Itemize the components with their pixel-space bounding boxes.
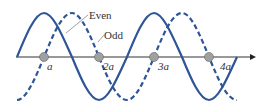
odd-label: Odd bbox=[104, 29, 123, 41]
axis-arrow-icon bbox=[250, 54, 256, 60]
even-label: Even bbox=[89, 9, 112, 21]
tick-4a: 4a bbox=[220, 60, 231, 72]
standing-wave-diagram: Even Odd a 2a 3a 4a bbox=[0, 0, 258, 111]
tick-2a: 2a bbox=[103, 60, 114, 72]
tick-3a: 3a bbox=[158, 60, 169, 72]
tick-a: a bbox=[47, 60, 53, 72]
wave-plot bbox=[0, 0, 258, 111]
